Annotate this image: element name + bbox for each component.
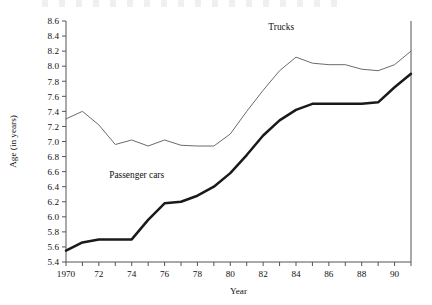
series-inline-labels: TrucksPassenger cars xyxy=(109,22,294,180)
x-axis-ticks: 197072747678808284868890 xyxy=(57,262,411,279)
line-chart: 5.45.65.86.06.26.46.66.87.07.27.47.67.88… xyxy=(0,0,432,305)
series-line-trucks xyxy=(66,51,411,146)
y-tick-label: 8.6 xyxy=(48,16,60,26)
y-tick-label: 6.4 xyxy=(48,182,60,192)
x-tick-label: 84 xyxy=(291,269,301,279)
y-tick-label: 6.8 xyxy=(48,152,60,162)
y-tick-label: 7.6 xyxy=(48,92,60,102)
y-tick-label: 5.6 xyxy=(48,242,60,252)
y-tick-label: 8.2 xyxy=(48,46,60,56)
y-tick-label: 7.4 xyxy=(48,107,60,117)
chart-axes xyxy=(66,21,411,262)
y-tick-label: 7.2 xyxy=(48,122,60,132)
x-tick-label: 76 xyxy=(160,269,170,279)
page-top-artifact xyxy=(42,0,342,7)
x-tick-label: 82 xyxy=(259,269,269,279)
series-line-passenger-cars xyxy=(66,74,411,251)
x-axis-title: Year xyxy=(230,286,247,296)
series-label-trucks: Trucks xyxy=(268,22,294,32)
y-tick-label: 7.8 xyxy=(48,77,60,87)
x-tick-label: 72 xyxy=(94,269,104,279)
x-tick-label: 1970 xyxy=(57,269,76,279)
y-tick-label: 6.0 xyxy=(48,212,60,222)
y-tick-label: 8.0 xyxy=(48,61,60,71)
y-axis-ticks: 5.45.65.86.06.26.46.66.87.07.27.47.67.88… xyxy=(48,16,66,267)
y-tick-label: 7.0 xyxy=(48,137,60,147)
x-tick-label: 88 xyxy=(357,269,367,279)
x-tick-label: 78 xyxy=(193,269,203,279)
chart-series-group xyxy=(66,51,411,251)
y-tick-label: 5.4 xyxy=(48,257,60,267)
y-tick-label: 6.6 xyxy=(48,167,60,177)
y-tick-label: 8.4 xyxy=(48,31,60,41)
y-tick-label: 5.8 xyxy=(48,227,60,237)
series-label-passenger-cars: Passenger cars xyxy=(109,170,164,180)
y-tick-label: 6.2 xyxy=(48,197,60,207)
x-tick-label: 80 xyxy=(226,269,236,279)
y-axis-title: Age (in years) xyxy=(8,115,18,168)
x-tick-label: 74 xyxy=(127,269,137,279)
x-tick-label: 90 xyxy=(390,269,400,279)
chart-container: 5.45.65.86.06.26.46.66.87.07.27.47.67.88… xyxy=(0,0,432,305)
x-tick-label: 86 xyxy=(324,269,334,279)
